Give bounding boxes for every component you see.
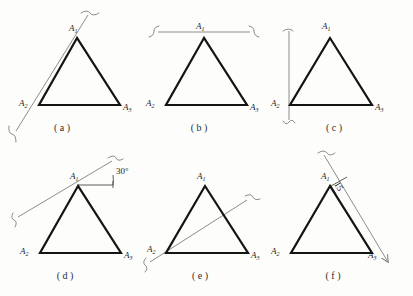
figure-e-vertex-left-label: A2 [146, 244, 156, 255]
figure-b-vertex-right-label: A3 [249, 102, 259, 113]
figure-a-endpoint-tick-top [81, 11, 99, 15]
figure-f-vertex-right-label: A3 [367, 250, 377, 261]
figure-d-vertex-apex-label: A1 [69, 171, 79, 182]
figure-d: 30° A1 A2 A3 ( d ) [12, 156, 133, 282]
figure-f-triangle [291, 186, 372, 253]
figure-c-endpoint-tick-top [283, 29, 293, 31]
figure-b-vertex-apex-label: A1 [195, 21, 205, 32]
figure-d-caption: ( d ) [57, 270, 74, 282]
figure-c-vertex-left-label: A2 [270, 98, 280, 109]
figure-c-triangle [290, 38, 372, 105]
figure-b-caption: ( b ) [191, 122, 208, 134]
figure-b-vertex-left-label: A2 [145, 98, 155, 109]
figure-d-triangle [40, 186, 121, 253]
figure-f: 15 A1 A2 A3 ( f ) [270, 151, 388, 282]
figure-a-vertex-apex-label: A1 [68, 23, 78, 34]
figure-e-vertex-apex-label: A1 [196, 171, 206, 182]
figure-e-vertex-right-label: A3 [250, 250, 260, 261]
figure-b-endpoint-tick-right [249, 26, 259, 37]
figure-e-triangle [166, 186, 248, 253]
figure-a-triangle [39, 38, 120, 105]
figure-a-vertex-left-label: A2 [18, 98, 28, 109]
figure-d-vertex-right-label: A3 [123, 250, 133, 261]
figure-d-endpoint-tick-top [108, 156, 123, 160]
figure-c: A1 A2 A3 ( c ) [270, 21, 384, 134]
figure-a-caption: ( a ) [54, 122, 70, 134]
figure-b: A1 A2 A3 ( b ) [145, 21, 259, 134]
figure-sheet: A1 A2 A3 ( a ) A1 A2 A3 ( b ) A1 [0, 0, 413, 296]
figure-d-vertex-left-label: A2 [19, 246, 29, 257]
figure-f-offset-line [324, 155, 388, 262]
figure-a: A1 A2 A3 ( a ) [9, 11, 132, 142]
figure-d-angle-value: 30° [116, 166, 129, 176]
figure-c-endpoint-tick-bottom [283, 120, 295, 124]
figure-f-vertex-apex-label: A1 [320, 171, 330, 182]
figure-e-caption: ( e ) [192, 270, 208, 282]
figure-b-endpoint-tick-left [149, 26, 159, 37]
figure-e-endpoint-tick-bottom [144, 258, 147, 272]
figure-c-vertex-right-label: A3 [374, 102, 384, 113]
figure-f-endpoint-tick-top [318, 151, 335, 155]
figure-b-triangle [166, 38, 247, 105]
figure-c-caption: ( c ) [326, 122, 342, 134]
figure-f-vertex-left-label: A2 [270, 246, 280, 257]
figure-e: A1 A2 A3 ( e ) [144, 171, 260, 282]
figure-a-vertex-right-label: A3 [122, 102, 132, 113]
figure-f-caption: ( f ) [326, 270, 341, 282]
figure-a-endpoint-tick-bottom [9, 126, 16, 142]
figure-d-endpoint-tick-bottom [12, 213, 17, 227]
figure-c-vertex-apex-label: A1 [321, 21, 331, 32]
figure-e-endpoint-tick-top [245, 195, 260, 200]
